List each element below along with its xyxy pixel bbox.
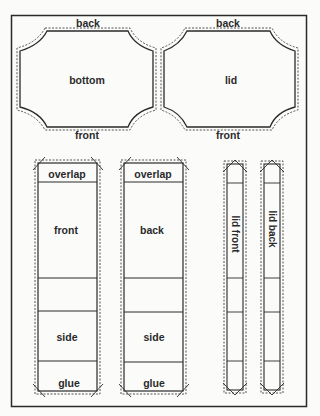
lid-back-strip-outline	[260, 160, 284, 395]
front-strip-glue-label: glue	[58, 377, 80, 389]
lid-panel-front-label: front	[216, 129, 240, 141]
bottom-panel-back-label: back	[76, 17, 100, 29]
back-strip-glue-label: glue	[143, 377, 165, 389]
back-strip-side-label: side	[143, 331, 164, 343]
outer-frame	[12, 16, 307, 407]
lid-back-label: lid back	[267, 210, 278, 247]
pattern-drawing	[0, 0, 320, 416]
lid-front-label: lid front	[230, 215, 241, 252]
bottom-panel-front-label: front	[75, 129, 99, 141]
front-strip-overlap-label: overlap	[48, 168, 85, 180]
front-strip-front-label: front	[54, 224, 78, 236]
lid-front-strip-outline	[223, 160, 247, 395]
bottom-panel-label: bottom	[69, 74, 105, 86]
back-strip-back-label: back	[140, 224, 164, 236]
lid-panel-back-label: back	[216, 17, 240, 29]
lid-panel-label: lid	[225, 74, 237, 86]
back-strip-outline	[119, 157, 189, 397]
back-strip-overlap-label: overlap	[134, 168, 171, 180]
front-strip-side-label: side	[56, 331, 77, 343]
front-strip-outline	[33, 157, 103, 397]
